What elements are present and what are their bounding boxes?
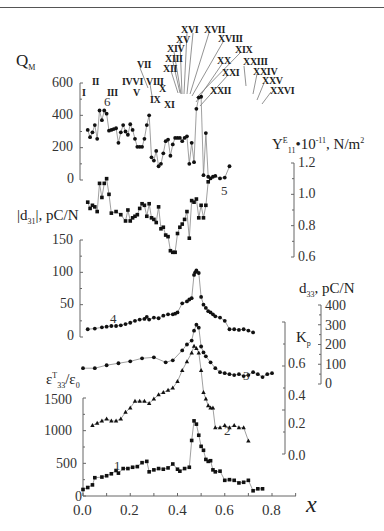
annotation-IVVI: IVVI — [122, 77, 143, 87]
annotation-XV: XV — [176, 35, 190, 45]
annotation-XIV: XIV — [167, 44, 184, 54]
annotation-XVI: XVI — [181, 25, 198, 35]
data-series — [81, 95, 274, 493]
d33-axis-label: d33, pC/N — [299, 281, 355, 299]
y11-axis-label: YE11•10-11, N/m2 — [272, 137, 364, 155]
d33-tick-400: 400 — [325, 299, 346, 313]
eps-tick-1500: 1500 — [44, 393, 72, 407]
x-tick-0.0: 0.0 — [73, 503, 92, 518]
annotation-XXII: XXII — [210, 86, 231, 96]
y11-tick-0.6: 0.6 — [298, 250, 316, 264]
curve-label-5: 5 — [221, 184, 228, 197]
kp-tick-0.6: 0.6 — [288, 357, 306, 371]
x-axis-label: x — [306, 492, 317, 516]
d33-tick-0: 0 — [325, 377, 332, 391]
d31-tick-0: 0 — [67, 329, 74, 343]
y11-tick-0.8: 0.8 — [298, 219, 316, 233]
series-curve-1 — [81, 419, 264, 493]
d31-tick-100: 100 — [52, 265, 73, 279]
annotation-II: II — [92, 77, 99, 87]
y11-tick-1.0: 1.0 — [298, 187, 316, 201]
d31-tick-50: 50 — [60, 297, 74, 311]
x-tick-0.4: 0.4 — [168, 503, 187, 518]
kp-tick-0.0: 0.0 — [288, 449, 306, 463]
eps-axis-label: εT33/ε0 — [46, 372, 80, 390]
annotation-XI: XI — [164, 100, 175, 110]
d31-axis-label: |d31|, pC/N — [17, 208, 79, 226]
qm-tick-600: 600 — [52, 76, 73, 90]
kp-tick-0.2: 0.2 — [288, 417, 306, 431]
kp-axis-label: Kp — [296, 330, 311, 348]
annotation-IX: IX — [150, 95, 161, 105]
curve-label-4: 4 — [110, 312, 117, 325]
annotation-X: X — [159, 84, 166, 94]
qm-tick-400: 400 — [52, 108, 73, 122]
qm-axis-label: QM — [16, 52, 35, 72]
annotation-V: V — [133, 88, 140, 98]
annotation-XXI: XXI — [222, 68, 239, 78]
d31-tick-150: 150 — [52, 233, 73, 247]
curve-label-3: 3 — [243, 369, 250, 382]
x-tick-0.8: 0.8 — [262, 503, 281, 518]
qm-tick-0: 0 — [67, 172, 74, 186]
annotation-VII: VII — [137, 60, 151, 70]
annotation-III: III — [107, 88, 118, 98]
y11-tick-1.2: 1.2 — [298, 156, 316, 170]
eps-tick-500: 500 — [56, 457, 77, 471]
series-curve-5 — [86, 177, 210, 254]
curve-label-1: 1 — [114, 459, 121, 472]
d33-tick-300: 300 — [325, 319, 346, 333]
qm-tick-200: 200 — [52, 140, 73, 154]
d33-tick-100: 100 — [325, 358, 346, 372]
kp-tick-0.4: 0.4 — [288, 389, 306, 403]
annotation-XX: XX — [217, 56, 231, 66]
annotation-XIX: XIX — [235, 45, 252, 55]
curve-label-2: 2 — [224, 424, 231, 437]
x-tick-0.2: 0.2 — [120, 503, 139, 518]
x-tick-0.6: 0.6 — [215, 503, 234, 518]
annotation-XXVI: XXVI — [270, 86, 294, 96]
annotation-XIII: XIII — [165, 54, 183, 64]
eps-tick-1000: 1000 — [44, 424, 72, 438]
annotation-XII: XII — [163, 64, 177, 74]
annotation-I: I — [82, 88, 86, 98]
annotation-XVIII: XVIII — [218, 34, 243, 44]
d33-tick-200: 200 — [325, 338, 346, 352]
